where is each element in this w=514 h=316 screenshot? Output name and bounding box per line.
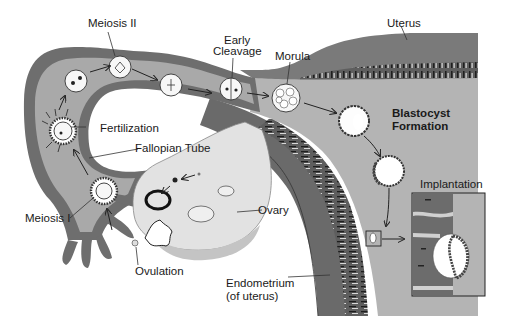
label-fertilization: Fertilization	[100, 122, 159, 134]
label-meiosis-i: Meiosis I	[25, 212, 70, 224]
first-division-cell	[160, 74, 182, 96]
meiosis-ii-cell	[109, 56, 131, 78]
implanting-blastocyst-small	[370, 233, 376, 243]
label-ovary: Ovary	[258, 204, 289, 216]
label-endometrium-2: (of uterus)	[226, 290, 279, 302]
implantation-inset	[412, 193, 485, 296]
label-ovulation: Ovulation	[135, 265, 184, 277]
fertilization-diagram: Meiosis II Early Cleavage Morula Uterus …	[0, 0, 514, 316]
early-blastocyst	[339, 106, 369, 136]
label-implantation: Implantation	[420, 178, 483, 190]
label-blastocyst-1: Blastocyst	[392, 107, 450, 119]
morula	[272, 84, 300, 112]
corpus-luteum	[188, 206, 214, 222]
primary-follicle	[173, 178, 178, 183]
corpus-albicans	[218, 186, 234, 196]
label-early-cleavage-2: Cleavage	[213, 45, 262, 57]
meiosis-i-oocyte	[91, 178, 117, 204]
blastocyst	[374, 156, 404, 186]
primordial-follicle	[198, 173, 201, 176]
ovulated-oocyte	[132, 240, 138, 246]
label-morula: Morula	[275, 50, 311, 62]
label-fallopian-tube: Fallopian Tube	[135, 142, 210, 154]
label-endometrium-1: Endometrium	[226, 277, 294, 289]
label-blastocyst-2: Formation	[392, 120, 448, 132]
early-cleavage-cell	[220, 78, 242, 100]
label-uterus: Uterus	[387, 17, 421, 29]
label-meiosis-ii: Meiosis II	[88, 17, 137, 29]
zygote	[65, 70, 87, 92]
